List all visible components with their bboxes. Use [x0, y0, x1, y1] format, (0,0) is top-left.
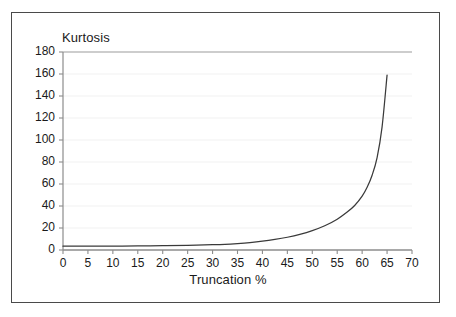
- chart-figure: Kurtosis Truncation % 020406080100120140…: [0, 0, 456, 317]
- y-tick-label: 140: [15, 88, 55, 102]
- y-axis-title: Kurtosis: [62, 30, 110, 45]
- x-axis-title: Truncation %: [0, 272, 456, 287]
- y-tick-label: 40: [15, 198, 55, 212]
- gridlines-group: [63, 52, 412, 228]
- y-tick-label: 20: [15, 220, 55, 234]
- x-tick-label: 70: [397, 256, 427, 270]
- y-tick-label: 160: [15, 66, 55, 80]
- y-tick-label: 120: [15, 110, 55, 124]
- kurtosis-curve: [63, 75, 387, 246]
- y-tick-label: 0: [15, 242, 55, 256]
- y-tick-label: 180: [15, 44, 55, 58]
- y-tick-label: 100: [15, 132, 55, 146]
- y-tick-label: 80: [15, 154, 55, 168]
- y-tick-label: 60: [15, 176, 55, 190]
